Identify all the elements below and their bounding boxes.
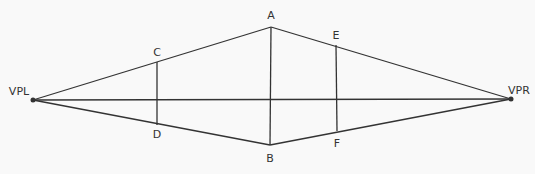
label-f: F	[334, 138, 340, 149]
label-d: D	[153, 129, 161, 140]
label-b: B	[266, 153, 274, 164]
vanishing-point-vpl	[31, 98, 36, 103]
segment-vpl-b	[33, 100, 270, 145]
segment-vpl-a	[33, 27, 271, 100]
label-e: E	[333, 30, 340, 41]
perspective-diagram: VPL VPR A B C D E F	[0, 0, 535, 174]
segment-vpr-a	[271, 27, 511, 99]
segment-vpl-vpr	[33, 99, 511, 100]
segment-e-f	[336, 45, 337, 131]
label-c: C	[153, 47, 161, 58]
diagram-canvas	[0, 0, 535, 174]
label-vpr: VPR	[508, 85, 530, 96]
segment-vpr-b	[270, 99, 511, 145]
label-vpl: VPL	[9, 86, 29, 97]
label-a: A	[267, 10, 275, 21]
segment-a-b	[270, 27, 271, 145]
vanishing-point-vpr	[509, 97, 514, 102]
